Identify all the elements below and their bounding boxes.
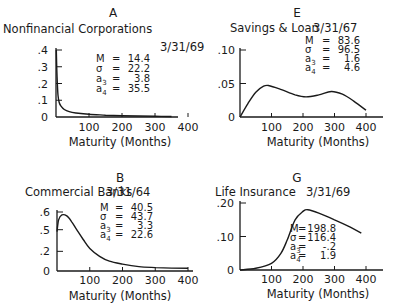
x-axis-label: Maturity (Months) xyxy=(69,135,172,149)
x-tick-label: 200 xyxy=(112,274,133,287)
y-tick-label: .4 xyxy=(38,44,49,57)
panel-e: ESavings & Loan3/31/67.10.05010020030040… xyxy=(218,6,384,149)
x-tick-label: 200 xyxy=(293,273,314,286)
panel-date: 3/31/67 xyxy=(313,21,357,35)
x-tick-label: 300 xyxy=(145,121,166,134)
y-tick-label: 0 xyxy=(228,111,235,124)
x-tick-label: 300 xyxy=(324,273,345,286)
y-tick-label: .3 xyxy=(38,61,49,74)
y-tick-label: .6 xyxy=(40,206,51,219)
y-tick-label: 0 xyxy=(41,111,48,124)
x-tick-label: 300 xyxy=(145,274,166,287)
x-tick-label: 400 xyxy=(178,121,199,134)
x-tick-label: 100 xyxy=(79,274,100,287)
x-tick-label: 100 xyxy=(261,121,282,134)
stat-value-a4: 35.5 xyxy=(128,83,150,94)
y-tick-label: 0 xyxy=(43,265,50,278)
panel-b: BCommercial Banks3/31/64.6.5.20100200300… xyxy=(25,171,199,303)
x-axis-label: Maturity (Months) xyxy=(267,135,370,149)
panel-title: Nonfinancial Corporations xyxy=(3,22,152,36)
x-axis-label: Maturity (Months) xyxy=(267,287,370,301)
y-tick-label: .5 xyxy=(40,224,51,237)
panel-date: 3/31/69 xyxy=(306,185,350,199)
density-curve xyxy=(240,85,366,117)
stat-equals: = xyxy=(115,229,123,240)
x-tick-label: 200 xyxy=(112,121,133,134)
y-tick-label: .20 xyxy=(217,197,235,210)
panel-letter: A xyxy=(109,6,118,20)
y-tick-label: 0 xyxy=(227,264,234,277)
y-tick-label: .2 xyxy=(38,78,49,91)
y-tick-label: .05 xyxy=(218,78,236,91)
stat-equals: = xyxy=(322,62,330,73)
panel-title: Savings & Loan xyxy=(230,21,319,35)
y-tick-label: .1 xyxy=(38,94,49,107)
panel-date: 3/31/69 xyxy=(160,40,204,54)
y-tick-label: .2 xyxy=(40,245,51,258)
stat-equals: = xyxy=(112,83,120,94)
stat-value-a4: 4.6 xyxy=(344,62,360,73)
x-tick-label: 300 xyxy=(324,121,345,134)
x-tick-label: 100 xyxy=(261,273,282,286)
x-tick-label: 200 xyxy=(293,121,314,134)
x-tick-label: 400 xyxy=(178,274,199,287)
panel-letter: B xyxy=(116,171,124,185)
x-tick-label: 400 xyxy=(356,273,377,286)
x-tick-label: 100 xyxy=(79,121,100,134)
stat-value-a4: 22.6 xyxy=(131,229,153,240)
x-tick-label: 400 xyxy=(356,121,377,134)
x-axis-label: Maturity (Months) xyxy=(69,289,172,303)
panel-g: GLife Insurance3/31/69.20.10010020030040… xyxy=(215,171,383,301)
panel-a: ANonfinancial Corporations3/31/69.4.3.2.… xyxy=(3,6,204,149)
stat-value-a4: 1.9 xyxy=(320,250,336,261)
panel-date: 3/31/64 xyxy=(106,185,150,199)
y-tick-label: .10 xyxy=(217,231,235,244)
stat-equals: = xyxy=(298,250,306,261)
panel-letter: E xyxy=(293,6,301,20)
figure: ANonfinancial Corporations3/31/69.4.3.2.… xyxy=(0,0,403,308)
y-tick-label: .10 xyxy=(218,44,236,57)
panel-letter: G xyxy=(292,171,301,185)
